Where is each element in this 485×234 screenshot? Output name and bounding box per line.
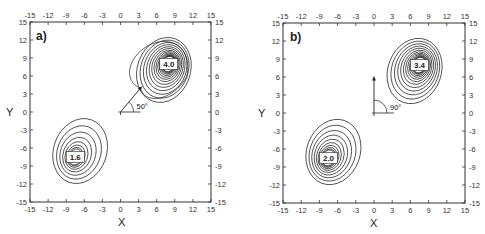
- y-tick-label-left: 15: [272, 19, 280, 28]
- y-tick-label-left: -3: [273, 127, 280, 136]
- x-tick-label-bottom: 0: [118, 205, 122, 214]
- svg-text:3.4: 3.4: [414, 61, 426, 70]
- svg-text:1.6: 1.6: [70, 153, 82, 162]
- x-tick-label-top: 12: [189, 11, 197, 20]
- x-tick-label-bottom: -6: [81, 205, 88, 214]
- x-tick-label-top: -12: [43, 11, 54, 20]
- x-ticks-bottom-b: -15-12-9-6-303691215: [278, 200, 470, 215]
- x-ticks-bottom-a: -15-12-9-6-303691215: [25, 199, 216, 214]
- y-tick-label-right: 3: [215, 90, 219, 99]
- x-tick-label-top: 9: [427, 12, 431, 21]
- y-tick-label-left: -15: [269, 199, 280, 208]
- angle-label: 90°: [390, 103, 401, 112]
- x-tick-label-bottom: -3: [99, 205, 106, 214]
- svg-text:2.0: 2.0: [323, 154, 335, 163]
- x-tick-label-bottom: 15: [207, 205, 215, 214]
- x-tick-label-bottom: -9: [63, 205, 70, 214]
- y-tick-label-right: 9: [215, 54, 219, 63]
- y-tick-label-left: 15: [19, 18, 27, 27]
- y-tick-label-right: 0: [215, 108, 219, 117]
- y-tick-label-left: -9: [20, 162, 27, 171]
- x-tick-label-bottom: -6: [334, 206, 341, 215]
- y-tick-label-left: -3: [20, 126, 27, 135]
- y-tick-label-right: -3: [215, 126, 222, 135]
- y-tick-label-left: -12: [16, 180, 27, 189]
- y-tick-label-right: -15: [469, 199, 480, 208]
- figure: -15-12-9-6-303691215 -15-12-9-6-30369121…: [0, 0, 485, 234]
- panel-label-b: b): [290, 30, 301, 44]
- x-tick-label-top: -6: [334, 12, 341, 21]
- y-tick-label-left: 3: [276, 91, 280, 100]
- x-tick-label-bottom: 3: [390, 206, 394, 215]
- x-axis-title-a: X: [118, 216, 126, 228]
- y-tick-label-left: 0: [276, 109, 280, 118]
- y-tick-label-right: -9: [215, 162, 222, 171]
- x-tick-label-top: -6: [81, 11, 88, 20]
- y-tick-label-right: 12: [469, 37, 477, 46]
- x-tick-label-bottom: -12: [296, 206, 307, 215]
- x-ticks-top-b: -15-12-9-6-303691215: [278, 12, 470, 26]
- peak-label: 3.4: [411, 60, 429, 71]
- peak-label: 2.0: [320, 153, 338, 164]
- panel-b: -15-12-9-6-303691215 -15-12-9-6-30369121…: [258, 12, 480, 229]
- x-tick-label-bottom: 3: [137, 205, 141, 214]
- x-tick-label-top: 0: [118, 11, 122, 20]
- angle-label: 50°: [137, 102, 148, 111]
- y-tick-label-left: 12: [19, 36, 27, 45]
- y-tick-label-right: -15: [215, 198, 226, 207]
- y-tick-label-right: -12: [469, 181, 480, 190]
- x-tick-label-top: 15: [207, 11, 215, 20]
- x-tick-label-top: 15: [461, 12, 469, 21]
- x-tick-label-bottom: -3: [352, 206, 359, 215]
- y-tick-label-left: 3: [23, 90, 27, 99]
- x-tick-label-bottom: 12: [189, 205, 197, 214]
- contours-a: 4.01.650°: [44, 30, 200, 192]
- x-tick-label-top: -12: [296, 12, 307, 21]
- x-tick-label-top: -3: [99, 11, 106, 20]
- y-tick-label-right: -12: [215, 180, 226, 189]
- contours-b: 3.42.090°: [297, 31, 451, 193]
- x-tick-label-top: 6: [408, 12, 412, 21]
- x-tick-label-top: 3: [390, 12, 394, 21]
- y-tick-label-right: 0: [469, 109, 473, 118]
- y-tick-label-right: 6: [215, 72, 219, 81]
- y-tick-label-right: -6: [469, 145, 476, 154]
- x-tick-label-bottom: 6: [155, 205, 159, 214]
- panel-label-a: a): [36, 29, 47, 43]
- x-tick-label-top: -9: [316, 12, 323, 21]
- y-tick-label-left: 0: [23, 108, 27, 117]
- x-tick-label-bottom: 15: [461, 206, 469, 215]
- x-axis-title-b: X: [370, 217, 378, 229]
- x-tick-label-bottom: -9: [316, 206, 323, 215]
- x-tick-label-bottom: 9: [427, 206, 431, 215]
- y-tick-label-right: -3: [469, 127, 476, 136]
- y-tick-label-right: 6: [469, 73, 473, 82]
- y-tick-label-right: 15: [215, 18, 223, 27]
- y-tick-label-left: -9: [273, 163, 280, 172]
- x-tick-label-top: -9: [63, 11, 70, 20]
- y-tick-label-right: 15: [469, 19, 477, 28]
- svg-text:4.0: 4.0: [163, 60, 175, 69]
- y-tick-label-left: -6: [20, 144, 27, 153]
- peak-label: 4.0: [160, 59, 178, 70]
- x-tick-label-bottom: -12: [43, 205, 54, 214]
- x-tick-label-bottom: 6: [408, 206, 412, 215]
- x-tick-label-top: 12: [443, 12, 451, 21]
- y-tick-label-left: 12: [272, 37, 280, 46]
- y-tick-label-right: -9: [469, 163, 476, 172]
- x-tick-label-top: -3: [352, 12, 359, 21]
- x-ticks-top-a: -15-12-9-6-303691215: [25, 11, 216, 25]
- y-tick-label-right: 3: [469, 91, 473, 100]
- y-tick-label-left: -6: [273, 145, 280, 154]
- y-tick-label-left: 6: [23, 72, 27, 81]
- x-tick-label-top: 3: [137, 11, 141, 20]
- direction-arrow: 90°: [372, 77, 401, 116]
- x-tick-label-top: 9: [173, 11, 177, 20]
- direction-arrow: 50°: [119, 87, 148, 115]
- y-axis-title-b: Y: [258, 107, 266, 119]
- y-tick-label-left: 9: [23, 54, 27, 63]
- y-tick-label-right: -6: [215, 144, 222, 153]
- x-tick-label-top: 6: [155, 11, 159, 20]
- x-tick-label-bottom: 12: [443, 206, 451, 215]
- y-tick-label-left: -12: [269, 181, 280, 190]
